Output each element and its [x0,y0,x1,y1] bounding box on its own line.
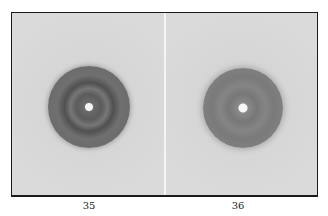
panel-label-36: 36 [218,200,258,211]
diffraction-pattern-35 [48,66,130,148]
panel-label-35: 35 [69,200,109,211]
diffraction-pattern-36 [203,68,283,148]
diffraction-panel-36 [166,13,317,195]
diffraction-panel-35 [12,13,164,195]
figure-frame [11,12,318,197]
